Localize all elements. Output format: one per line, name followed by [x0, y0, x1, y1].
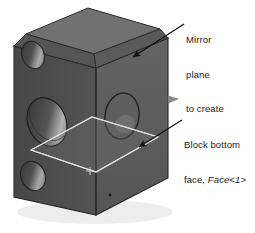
mirror-plane-label-line2: plane: [186, 69, 224, 81]
plane-edge-tab-marker: [168, 96, 178, 103]
bottom-face-label-line1: Block bottom: [184, 139, 246, 151]
bottom-face-label-line2: face, Face<1>: [184, 174, 246, 186]
plane-corner-node: [109, 194, 112, 197]
mirror-plane-label-line3: to create: [186, 103, 224, 115]
bottom-face-label-prefix: face,: [184, 174, 208, 185]
bottom-face-label: Block bottom face, Face<1>: [184, 116, 246, 208]
bottom-face-reference: Face<1>: [208, 174, 246, 185]
cad-figure: Mirror plane to create Block bottom face…: [0, 0, 255, 233]
mirror-plane-label-line1: Mirror: [186, 34, 224, 46]
